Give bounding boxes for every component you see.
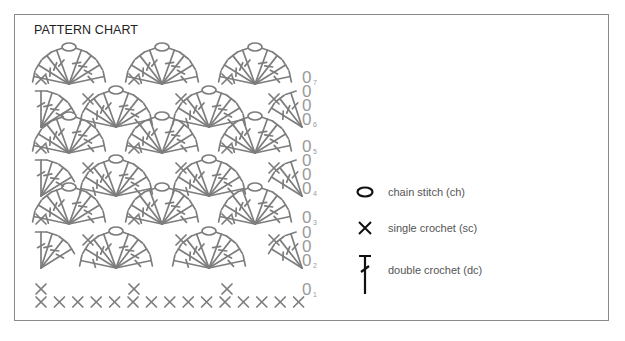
legend-item-chain: chain stitch (ch) <box>352 182 465 202</box>
double-crochet-icon <box>352 252 378 296</box>
svg-text:2: 2 <box>313 262 317 269</box>
legend-label: single crochet (sc) <box>388 222 477 234</box>
stitch-diagram <box>33 43 304 307</box>
svg-text:0: 0 <box>302 208 311 227</box>
row-labels: 01020003040005060007 <box>302 68 317 299</box>
svg-text:0: 0 <box>302 137 311 156</box>
svg-text:4: 4 <box>313 190 317 197</box>
pattern-chart: 01020003040005060007 <box>0 0 625 341</box>
svg-text:0: 0 <box>302 280 311 299</box>
legend-item-single-crochet: single crochet (sc) <box>352 218 477 238</box>
legend-label: double crochet (dc) <box>388 264 482 276</box>
legend-item-double-crochet: double crochet (dc) <box>352 252 482 296</box>
svg-text:3: 3 <box>313 219 317 226</box>
chain-icon <box>352 185 378 199</box>
svg-text:0: 0 <box>302 68 311 87</box>
svg-text:1: 1 <box>313 291 317 298</box>
single-crochet-icon <box>352 219 378 237</box>
svg-text:6: 6 <box>313 121 317 128</box>
svg-text:5: 5 <box>313 148 317 155</box>
legend-label: chain stitch (ch) <box>388 186 465 198</box>
svg-text:7: 7 <box>313 79 317 86</box>
